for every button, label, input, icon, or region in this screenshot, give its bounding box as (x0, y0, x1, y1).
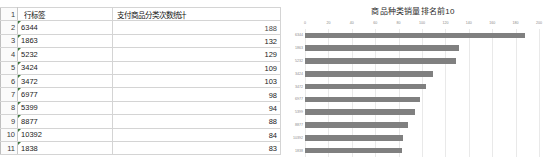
cell-value-databar[interactable]: 188 (113, 21, 281, 34)
error-indicator-icon (18, 115, 21, 118)
cell-row-label-text: 1838 (21, 144, 38, 153)
error-indicator-icon (18, 48, 21, 51)
x-axis-tick-label: 120 (442, 21, 448, 25)
row-header-1[interactable]: 1 (1, 8, 18, 21)
error-indicator-icon (18, 35, 21, 38)
cell-value-text: 83 (269, 144, 277, 153)
row-header-3[interactable]: 3 (1, 34, 18, 47)
row-header-6[interactable]: 6 (1, 74, 18, 87)
bar-chart-panel: 商品种类销量排名前10 0204060801001201401601802006… (281, 0, 545, 163)
chart-bar[interactable] (305, 135, 403, 141)
cell-value-databar[interactable]: 129 (113, 48, 281, 61)
column-header-row-label-text: 行标签 (21, 9, 112, 20)
x-axis-tick-label: 20 (326, 21, 330, 25)
cell-value-databar[interactable]: 98 (113, 88, 281, 101)
y-axis-category-label: 3472 (295, 85, 303, 89)
chart-bar-row: 6977 (305, 93, 539, 106)
cell-value-databar[interactable]: 84 (113, 128, 281, 141)
spreadsheet-table: 1行标签支付商品分类次数统计26344188318631324523212953… (0, 7, 281, 155)
cell-value-databar[interactable]: 83 (113, 141, 281, 154)
error-indicator-icon (18, 142, 21, 145)
row-header-4[interactable]: 4 (1, 48, 18, 61)
cell-value-text: 84 (269, 130, 277, 139)
table-row: 101039284 (1, 128, 281, 141)
chart-title: 商品种类销量排名前10 (281, 5, 545, 16)
cell-value-databar[interactable]: 88 (113, 115, 281, 128)
cell-row-label[interactable]: 5399 (18, 101, 113, 114)
error-indicator-icon (18, 102, 21, 105)
row-header-11[interactable]: 11 (1, 141, 18, 154)
cell-value-databar[interactable]: 94 (113, 101, 281, 114)
y-axis-category-label: 10392 (293, 136, 303, 140)
row-header-5[interactable]: 5 (1, 61, 18, 74)
error-indicator-icon (18, 62, 21, 65)
chart-bar[interactable] (305, 71, 433, 77)
cell-row-label-text: 6344 (21, 23, 38, 32)
row-header-7[interactable]: 7 (1, 88, 18, 101)
chart-bar[interactable] (305, 58, 456, 64)
chart-gridline (539, 29, 540, 157)
chart-bar-row: 3472 (305, 80, 539, 93)
cell-value-text: 109 (264, 63, 277, 72)
cell-row-label[interactable]: 8877 (18, 115, 113, 128)
cell-value-text: 103 (264, 77, 277, 86)
chart-bar[interactable] (305, 109, 415, 115)
spreadsheet-pane: 1行标签支付商品分类次数统计26344188318631324523212953… (0, 7, 281, 157)
y-axis-category-label: 5399 (295, 110, 303, 114)
chart-bar[interactable] (305, 45, 459, 51)
cell-row-label-text: 8877 (21, 117, 38, 126)
cell-row-label-text: 3424 (21, 63, 38, 72)
x-axis-tick-label: 180 (513, 21, 519, 25)
table-row: 8539994 (1, 101, 281, 114)
x-axis-tick-label: 0 (304, 21, 306, 25)
table-row: 31863132 (1, 34, 281, 47)
cell-row-label[interactable]: 5232 (18, 48, 113, 61)
y-axis-category-label: 5232 (295, 59, 303, 63)
chart-plot-area: 0204060801001201401601802006344186352323… (305, 29, 539, 157)
error-indicator-icon (18, 129, 21, 132)
cell-value-databar[interactable]: 103 (113, 74, 281, 87)
cell-row-label-text: 3472 (21, 77, 38, 86)
cell-row-label[interactable]: 1838 (18, 141, 113, 154)
x-axis-tick-label: 40 (350, 21, 354, 25)
cell-row-label-text: 10392 (21, 130, 42, 139)
table-row: 63472103 (1, 74, 281, 87)
chart-bar[interactable] (305, 148, 402, 154)
cell-row-label[interactable]: 10392 (18, 128, 113, 141)
cell-value-text: 94 (269, 103, 277, 112)
chart-bar[interactable] (305, 84, 426, 90)
row-header-9[interactable]: 9 (1, 115, 18, 128)
cell-row-label-text: 5399 (21, 103, 38, 112)
cell-row-label[interactable]: 6977 (18, 88, 113, 101)
column-header-value[interactable]: 支付商品分类次数统计 (113, 8, 281, 21)
chart-bar[interactable] (305, 97, 420, 103)
cell-row-label[interactable]: 3472 (18, 74, 113, 87)
cell-value-text: 132 (264, 36, 277, 45)
chart-bar[interactable] (305, 122, 408, 128)
cell-value-text: 188 (264, 23, 277, 32)
cell-value-text: 129 (264, 50, 277, 59)
row-header-8[interactable]: 8 (1, 101, 18, 114)
chart-bar-row: 5399 (305, 106, 539, 119)
cell-value-databar[interactable]: 109 (113, 61, 281, 74)
y-axis-category-label: 1838 (295, 149, 303, 153)
table-row: 53424109 (1, 61, 281, 74)
column-header-value-text: 支付商品分类次数统计 (113, 9, 280, 20)
x-axis-tick-label: 160 (489, 21, 495, 25)
table-row: 1行标签支付商品分类次数统计 (1, 8, 281, 21)
chart-bar[interactable] (305, 33, 525, 39)
cell-row-label[interactable]: 6344 (18, 21, 113, 34)
cell-row-label[interactable]: 3424 (18, 61, 113, 74)
column-header-row-label[interactable]: 行标签 (18, 8, 113, 21)
cell-value-text: 88 (269, 117, 277, 126)
x-axis-tick-label: 140 (466, 21, 472, 25)
x-axis-tick-label: 60 (373, 21, 377, 25)
y-axis-category-label: 6977 (295, 97, 303, 101)
x-axis-tick-label: 80 (397, 21, 401, 25)
table-row: 45232129 (1, 48, 281, 61)
cell-row-label[interactable]: 1863 (18, 34, 113, 47)
error-indicator-icon (18, 21, 21, 24)
row-header-2[interactable]: 2 (1, 21, 18, 34)
cell-value-databar[interactable]: 132 (113, 34, 281, 47)
row-header-10[interactable]: 10 (1, 128, 18, 141)
